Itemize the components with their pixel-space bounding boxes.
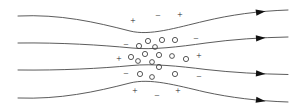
charge-row2-minus-right: − — [193, 34, 198, 44]
particle-circle — [150, 75, 155, 80]
field-line-top-outer-arrow-icon — [256, 8, 266, 15]
particle-circle — [183, 56, 188, 61]
charge-row4-minus-left: − — [123, 69, 128, 79]
particle-circle — [142, 51, 147, 56]
particle-circle — [172, 71, 177, 76]
charge-row3-plus-right: + — [196, 51, 201, 61]
particle-circle — [128, 54, 133, 59]
particle-circle — [136, 43, 141, 48]
particle-circle — [145, 38, 150, 43]
particle-circle — [136, 59, 141, 64]
field-line-bottom-outer — [18, 81, 288, 102]
field-line-bottom-inner-arrow-icon — [256, 70, 266, 77]
field-line-top-inner-arrow-icon — [256, 35, 266, 42]
charge-row2-minus-left: − — [123, 40, 128, 50]
particle-circle — [159, 37, 164, 42]
particle-circle — [156, 52, 161, 57]
flux-line-group — [18, 10, 288, 102]
particle-circle — [170, 54, 175, 59]
field-line-bottom-inner — [18, 65, 288, 75]
charge-bottom-plus-left: + — [132, 86, 137, 96]
particle-circle — [150, 60, 155, 65]
particle-circle — [137, 71, 142, 76]
field-line-top-outer — [18, 10, 288, 33]
arrow-head-group — [256, 8, 266, 104]
field-line-diagram: +−+−−++−−+−+ — [0, 0, 303, 108]
charge-top-row-minus-mid: − — [155, 11, 160, 21]
charge-row3-plus-left: + — [116, 54, 121, 64]
diagram-canvas: +−+−−++−−+−+ — [0, 0, 303, 108]
charge-bottom-plus-right: + — [175, 86, 180, 96]
charge-top-row-plus-left: + — [130, 16, 135, 26]
charge-top-row-plus-right: + — [177, 10, 182, 20]
charge-row4-minus-right: − — [196, 72, 201, 82]
particle-group — [128, 37, 188, 79]
charge-bottom-minus-mid: − — [154, 91, 159, 101]
particle-circle — [172, 37, 177, 42]
